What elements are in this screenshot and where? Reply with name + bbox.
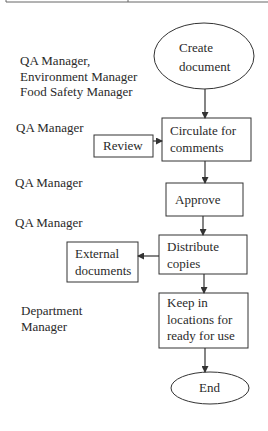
node-label-line: documents [75, 262, 131, 279]
node-approve-label: Approve [175, 192, 221, 208]
node-end-label: End [199, 380, 220, 396]
role-label-line: Environment Manager [20, 69, 137, 85]
node-label-line: comments [170, 139, 236, 156]
role-label-line: QA Manager [15, 215, 83, 231]
node-create-label: Create document [179, 38, 230, 76]
role-label-approve: QA Manager [15, 175, 83, 191]
role-label-create: QA Manager, Environment Manager Food Saf… [20, 53, 137, 100]
role-label-line: Food Safety Manager [20, 84, 137, 100]
node-label-line: Distribute [167, 238, 219, 255]
role-label-line: QA Manager [16, 120, 84, 136]
role-label-line: Manager [21, 319, 82, 335]
node-label-line: Approve [175, 192, 221, 208]
node-label-line: Create [179, 38, 230, 57]
node-label-line: Circulate for [170, 122, 236, 139]
node-label-line: ready for use [167, 328, 235, 345]
role-label-circulate: QA Manager [16, 120, 84, 136]
role-label-distribute: QA Manager [15, 215, 83, 231]
role-label-line: Department [21, 303, 82, 319]
node-label-line: Keep in [167, 295, 235, 312]
node-label-line: locations for [167, 312, 235, 329]
table-border-remnant [6, 0, 268, 2]
node-circulate-label: Circulate for comments [170, 122, 236, 156]
node-distribute-label: Distribute copies [167, 238, 219, 272]
node-label-line: External [75, 245, 131, 262]
node-label-line: copies [167, 255, 219, 272]
node-external-label: External documents [75, 245, 131, 279]
node-label-line: document [179, 57, 230, 76]
node-review-label: Review [103, 138, 143, 154]
node-keep-label: Keep in locations for ready for use [167, 295, 235, 345]
role-label-keep: Department Manager [21, 303, 82, 334]
role-label-line: QA Manager, [20, 53, 137, 69]
role-label-line: QA Manager [15, 175, 83, 191]
node-label-line: Review [103, 138, 143, 154]
node-label-line: End [199, 380, 220, 396]
